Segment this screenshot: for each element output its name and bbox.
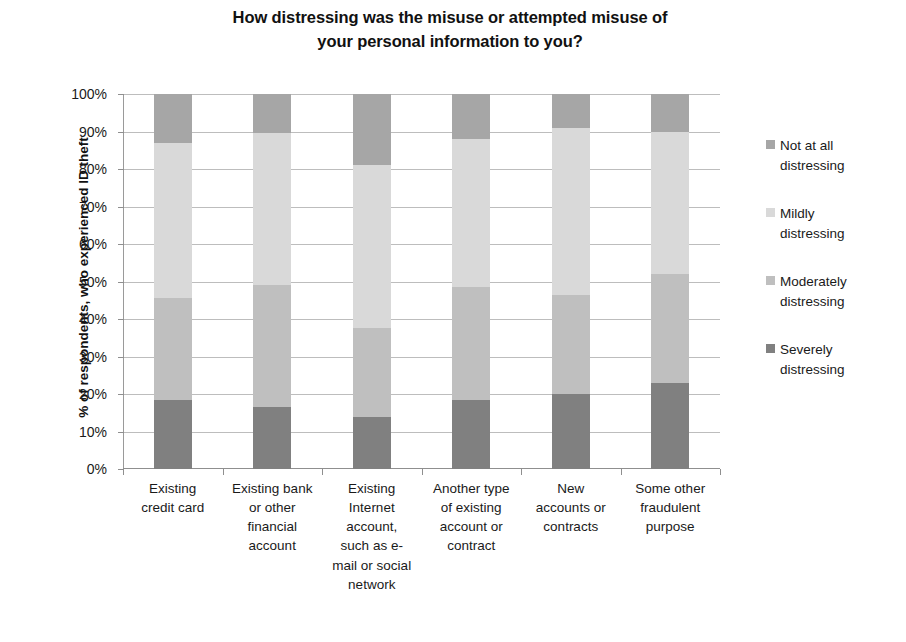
gridline-80% [123,169,720,170]
y-axis-tick-80% [118,169,124,170]
x-axis-label-line: Existing [123,479,223,498]
y-axis-tick-label-0%: 0% [87,461,107,477]
x-axis-label-line: account [223,536,323,555]
x-axis-category-labels: Existingcredit cardExisting bankor other… [123,479,720,639]
legend-label-line: Moderately [780,272,906,292]
bar-segment[interactable] [452,287,490,400]
y-axis-tick-50% [118,282,124,283]
chart-legend: Not at alldistressingMildlydistressingMo… [766,136,906,409]
gridline-100% [123,94,720,95]
bar-segment[interactable] [154,400,192,469]
x-axis-label-line: Existing bank [223,479,323,498]
bar-segment[interactable] [353,165,391,328]
x-axis-label-line: accounts or [521,498,621,517]
legend-label-line: Not at all [780,136,906,156]
bar-stack[interactable] [154,94,192,469]
plot-area [123,94,720,469]
gridline-70% [123,207,720,208]
x-axis-label-line: such as e- [322,536,422,555]
x-axis-label-line: Existing [322,479,422,498]
x-axis-label-6: Some otherfraudulentpurpose [621,479,721,536]
chart-title-line-2: your personal information to you? [120,30,780,54]
gridline-10% [123,432,720,433]
y-axis-tick-40% [118,319,124,320]
legend-item-1[interactable]: Not at alldistressing [766,136,906,175]
legend-item-3[interactable]: Moderatelydistressing [766,272,906,311]
bar-stack[interactable] [651,94,689,469]
y-axis-tick-30% [118,357,124,358]
x-axis-label-line: Another type [422,479,522,498]
bar-segment[interactable] [552,394,590,469]
bar-segment[interactable] [452,94,490,139]
legend-swatch-icon [766,140,775,149]
y-axis-tick-70% [118,207,124,208]
bar-segment[interactable] [651,274,689,383]
bar-segment[interactable] [353,328,391,416]
x-axis-label-1: Existingcredit card [123,479,223,517]
x-axis-label-5: Newaccounts orcontracts [521,479,621,536]
x-axis-label-line: credit card [123,498,223,517]
bar-segment[interactable] [452,400,490,469]
x-axis-label-2: Existing bankor otherfinancialaccount [223,479,323,556]
x-axis-tick [123,469,124,475]
y-axis-tick-label-40%: 40% [79,311,107,327]
legend-item-2[interactable]: Mildlydistressing [766,204,906,243]
x-axis-label-line: Some other [621,479,721,498]
legend-swatch-icon [766,276,775,285]
bar-segment[interactable] [253,94,291,133]
x-axis-label-4: Another typeof existingaccount orcontrac… [422,479,522,556]
gridline-50% [123,282,720,283]
bar-stack[interactable] [353,94,391,469]
bar-segment[interactable] [552,128,590,295]
gridline-30% [123,357,720,358]
y-axis-tick-label-100%: 100% [71,86,107,102]
y-axis-tick-label-20%: 20% [79,386,107,402]
y-axis-tick-60% [118,244,124,245]
y-axis-tick-label-50%: 50% [79,274,107,290]
x-axis-label-3: ExistingInternetaccount,such as e-mail o… [322,479,422,594]
y-axis-tick-label-10%: 10% [79,424,107,440]
bar-stack[interactable] [452,94,490,469]
x-axis-label-line: contract [422,536,522,555]
bar-segment[interactable] [353,94,391,165]
gridline-60% [123,244,720,245]
bar-segment[interactable] [452,139,490,287]
bar-segment[interactable] [651,383,689,469]
y-axis-tick-label-60%: 60% [79,236,107,252]
x-axis-label-line: mail or social [322,556,422,575]
y-axis-tick-label-90%: 90% [79,124,107,140]
x-axis-tick [322,469,323,475]
bar-segment[interactable] [253,407,291,469]
bar-segment[interactable] [552,94,590,128]
legend-item-4[interactable]: Severelydistressing [766,340,906,379]
bar-segment[interactable] [154,94,192,143]
y-axis-tick-90% [118,132,124,133]
bar-segment[interactable] [353,417,391,470]
bar-segment[interactable] [651,132,689,275]
x-axis-tick [720,469,721,475]
bar-segment[interactable] [154,143,192,299]
bar-segment[interactable] [253,285,291,407]
x-axis-label-line: financial [223,517,323,536]
x-axis-label-line: New [521,479,621,498]
bar-segment[interactable] [552,295,590,394]
bar-segment[interactable] [651,94,689,132]
gridline-40% [123,319,720,320]
y-axis-tick-label-70%: 70% [79,199,107,215]
y-axis-tick-10% [118,432,124,433]
x-axis-label-line: account, [322,517,422,536]
legend-swatch-icon [766,208,775,217]
y-axis-tick-20% [118,394,124,395]
bar-segment[interactable] [253,133,291,285]
bar-segment[interactable] [154,298,192,399]
x-axis-label-line: contracts [521,517,621,536]
legend-label-line: distressing [780,292,906,312]
legend-label-line: distressing [780,360,906,380]
bar-stack[interactable] [253,94,291,469]
legend-label-line: Severely [780,340,906,360]
chart-title-line-1: How distressing was the misuse or attemp… [120,6,780,30]
x-axis-label-line: or other [223,498,323,517]
bar-stack[interactable] [552,94,590,469]
x-axis-label-line: purpose [621,517,721,536]
y-axis-tick-label-80%: 80% [79,161,107,177]
